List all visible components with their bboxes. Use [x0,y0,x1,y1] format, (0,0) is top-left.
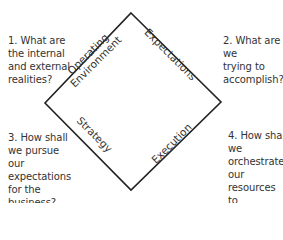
question-expectations: 2. What are we trying to accomplish? [223,34,283,86]
question-execution: 4. How shall we orchestrate our resource… [228,129,283,203]
question-strategy: 3. How shall we pursue our expectations … [8,131,78,203]
